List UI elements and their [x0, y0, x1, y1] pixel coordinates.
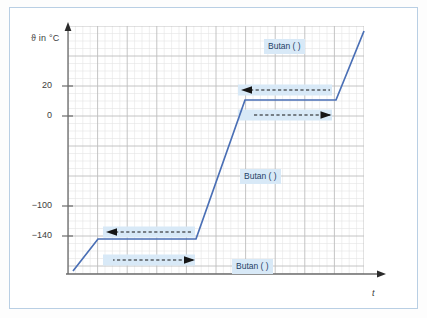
butan-label-solid: Butan ( ): [232, 259, 273, 274]
y-axis-arrow-icon: [65, 22, 72, 31]
butan-label-gas: Butan ( ): [264, 39, 305, 54]
figure-root: ϑ in °C 20 0 −100 −140 t Butan ( ) Butan…: [0, 0, 427, 318]
y-axis-label: ϑ in °C: [31, 33, 59, 43]
y-tick-label-20: 20: [18, 80, 52, 90]
butan-label-liquid: Butan ( ): [240, 169, 281, 184]
y-tick-label-minus-140: −140: [12, 230, 52, 240]
heating-curve-chart: [0, 0, 427, 318]
x-axis-label: t: [372, 288, 375, 298]
y-tick-label-0: 0: [18, 110, 52, 120]
x-axis-arrow-icon: [377, 271, 386, 278]
y-tick-label-minus-100: −100: [12, 200, 52, 210]
